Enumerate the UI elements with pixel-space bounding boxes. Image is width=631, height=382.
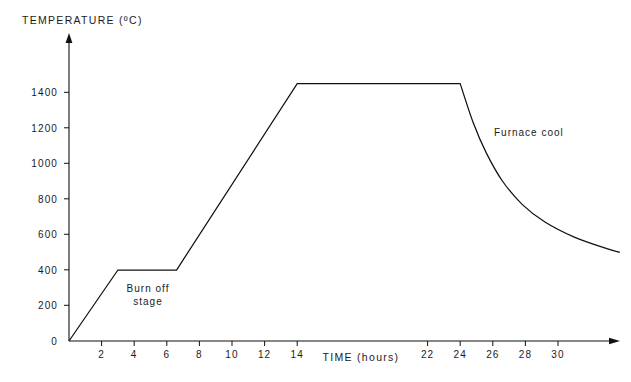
- x-axis-title: TIME (hours): [323, 351, 400, 363]
- y-tick-label: 1400: [31, 87, 58, 98]
- x-tick-label: 30: [551, 349, 564, 360]
- x-axis: [69, 338, 620, 344]
- furnace-cool-label: Furnace cool: [494, 127, 564, 138]
- y-tick-label: 1000: [31, 158, 58, 169]
- temperature-time-chart: TEMPERATURE (ºC) 1400 1200 1000 800 600 …: [0, 0, 631, 382]
- x-tick-label: 2: [98, 349, 105, 360]
- y-axis-tick-labels: 1400 1200 1000 800 600 400 200 0: [31, 87, 58, 347]
- y-tick-label: 0: [51, 336, 58, 347]
- x-axis-tick-labels-right: 22 24 26 28 30: [421, 349, 565, 360]
- x-tick-label: 8: [196, 349, 203, 360]
- y-tick-label: 800: [38, 194, 58, 205]
- y-tick-label: 400: [38, 265, 58, 276]
- y-axis-ticks: [64, 92, 69, 305]
- y-axis-title: TEMPERATURE (ºC): [22, 14, 143, 26]
- x-tick-label: 4: [131, 349, 138, 360]
- x-tick-label: 24: [454, 349, 467, 360]
- x-axis-arrow-icon: [609, 338, 620, 344]
- x-tick-label: 6: [163, 349, 170, 360]
- burn-off-label-line2: stage: [133, 296, 162, 307]
- chart-canvas: TEMPERATURE (ºC) 1400 1200 1000 800 600 …: [0, 0, 631, 382]
- y-axis-arrow-icon: [66, 33, 73, 43]
- burn-off-label-line1: Burn off: [127, 283, 170, 294]
- x-tick-label: 10: [225, 349, 238, 360]
- burn-off-stage-annotation: Burn off stage: [127, 283, 170, 307]
- x-tick-label: 14: [291, 349, 304, 360]
- x-tick-label: 26: [486, 349, 499, 360]
- y-tick-label: 600: [38, 229, 58, 240]
- y-axis: [66, 33, 73, 341]
- x-axis-tick-labels-left: 2 4 6 8 10 12 14: [98, 349, 304, 360]
- x-tick-label: 12: [258, 349, 271, 360]
- x-tick-label: 22: [421, 349, 434, 360]
- y-tick-label: 1200: [31, 123, 58, 134]
- furnace-cool-annotation: Furnace cool: [494, 127, 564, 138]
- x-tick-label: 28: [519, 349, 532, 360]
- x-axis-ticks: [102, 341, 558, 346]
- y-tick-label: 200: [38, 300, 58, 311]
